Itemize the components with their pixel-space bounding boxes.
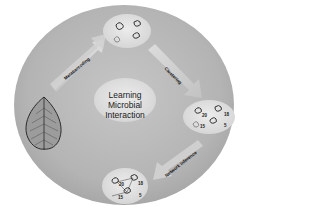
network-count-15: 15 bbox=[118, 195, 123, 200]
center-title: Learning Microbial Interaction bbox=[96, 90, 154, 120]
network-count-18: 18 bbox=[138, 181, 143, 186]
sequenced-microbes-node bbox=[103, 14, 151, 48]
cluster-count-15: 15 bbox=[200, 124, 205, 129]
center-title-line-2: Microbial bbox=[96, 100, 154, 110]
cluster-count-18: 18 bbox=[224, 112, 229, 117]
clustered-otus-node bbox=[183, 100, 235, 134]
cluster-count-5: 5 bbox=[224, 123, 227, 128]
inferred-network-node bbox=[102, 168, 148, 204]
cluster-count-20: 20 bbox=[202, 113, 207, 118]
network-count-5: 5 bbox=[139, 193, 142, 198]
network-count-20: 20 bbox=[119, 182, 124, 187]
center-title-line-1: Learning bbox=[96, 90, 154, 100]
center-title-line-3: Interaction bbox=[96, 110, 154, 120]
